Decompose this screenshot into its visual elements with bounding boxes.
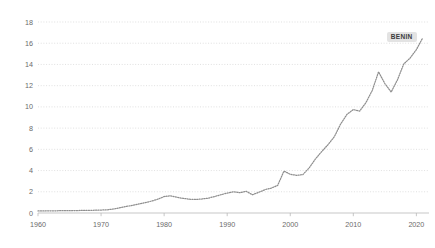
x-axis-ticks	[38, 213, 416, 216]
x-tick-label: 2010	[345, 220, 361, 229]
y-tick-label: 12	[25, 81, 33, 90]
x-axis-tick-labels: 1960197019801990200020102020	[30, 220, 424, 229]
x-tick-label: 1960	[30, 220, 46, 229]
y-tick-label: 4	[29, 166, 33, 175]
y-tick-label: 14	[25, 60, 33, 69]
y-tick-label: 10	[25, 102, 33, 111]
y-tick-label: 2	[29, 187, 33, 196]
x-tick-label: 1970	[93, 220, 109, 229]
line-chart: 024681012141618 196019701980199020002010…	[0, 0, 435, 248]
series-end-label: BENIN	[387, 32, 417, 43]
y-tick-label: 8	[29, 124, 33, 133]
y-tick-label: 6	[29, 145, 33, 154]
x-tick-label: 1990	[219, 220, 235, 229]
gridlines	[38, 22, 429, 213]
chart-plot-area: 024681012141618 196019701980199020002010…	[0, 0, 435, 248]
y-tick-label: 0	[29, 209, 33, 218]
series-line	[38, 38, 423, 211]
y-tick-label: 18	[25, 18, 33, 27]
y-tick-label: 16	[25, 39, 33, 48]
data-series	[38, 38, 423, 211]
x-tick-label: 2020	[408, 220, 424, 229]
x-tick-label: 2000	[282, 220, 298, 229]
x-tick-label: 1980	[156, 220, 172, 229]
y-axis-tick-labels: 024681012141618	[25, 18, 33, 218]
